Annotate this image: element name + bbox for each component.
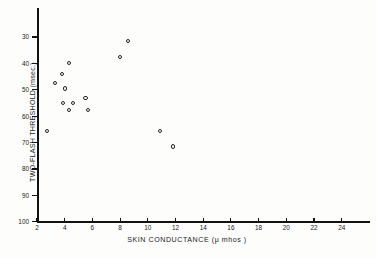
x-tick-6 (92, 218, 93, 222)
data-point (67, 108, 71, 112)
y-tick-label-100: 100 (7, 218, 29, 225)
x-tick-24 (341, 218, 342, 222)
x-tick-label-2: 2 (27, 224, 47, 231)
data-point (86, 108, 90, 112)
data-point (60, 72, 64, 76)
x-tick-label-22: 22 (304, 224, 324, 231)
y-tick-label-90: 90 (7, 192, 29, 199)
y-tick-80 (32, 168, 37, 169)
x-tick-4 (64, 218, 65, 222)
x-tick-14 (203, 218, 204, 222)
x-tick-label-12: 12 (166, 224, 186, 231)
x-tick-label-24: 24 (332, 224, 352, 231)
x-tick-12 (175, 218, 176, 222)
x-tick-10 (147, 218, 148, 222)
y-tick-40 (32, 63, 37, 64)
data-point (158, 129, 162, 133)
data-points-layer (0, 0, 376, 258)
scatter-plot-figure: TWO-FLASH THRESHOLD (msec.) 304050607080… (0, 0, 376, 258)
x-tick-22 (313, 218, 314, 222)
x-tick-2 (36, 218, 37, 222)
y-axis-title: TWO-FLASH THRESHOLD (msec.) (29, 42, 37, 202)
x-tick-label-14: 14 (193, 224, 213, 231)
data-point (63, 86, 67, 90)
x-tick-label-10: 10 (138, 224, 158, 231)
x-tick-label-8: 8 (110, 224, 130, 231)
x-tick-label-20: 20 (276, 224, 296, 231)
data-point (71, 101, 75, 105)
x-tick-16 (230, 218, 231, 222)
data-point (118, 55, 122, 59)
y-tick-label-70: 70 (7, 139, 29, 146)
data-point (45, 129, 49, 133)
y-tick-70 (32, 142, 37, 143)
y-tick-label-50: 50 (7, 86, 29, 93)
y-tick-90 (32, 195, 37, 196)
data-point (83, 96, 87, 100)
y-axis-line (37, 8, 39, 222)
y-tick-label-80: 80 (7, 165, 29, 172)
y-tick-60 (32, 116, 37, 117)
x-axis-title: SKIN CONDUCTANCE (μ mhos ) (37, 236, 337, 244)
y-tick-label-30: 30 (7, 33, 29, 40)
data-point (126, 39, 130, 43)
x-tick-8 (120, 218, 121, 222)
data-point (67, 61, 71, 65)
x-tick-label-18: 18 (249, 224, 269, 231)
y-tick-30 (32, 36, 37, 37)
data-point (171, 144, 175, 148)
x-tick-20 (286, 218, 287, 222)
data-point (53, 81, 57, 85)
data-point (61, 101, 65, 105)
y-tick-label-60: 60 (7, 113, 29, 120)
x-tick-label-4: 4 (55, 224, 75, 231)
x-tick-label-16: 16 (221, 224, 241, 231)
x-tick-18 (258, 218, 259, 222)
y-tick-50 (32, 89, 37, 90)
x-tick-label-6: 6 (82, 224, 102, 231)
y-tick-label-40: 40 (7, 60, 29, 67)
